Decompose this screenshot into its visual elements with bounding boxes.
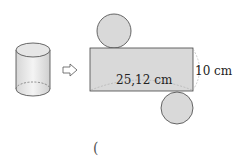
bottom-base-circle (161, 92, 193, 124)
height-label: 10 cm (195, 64, 232, 78)
length-label: 25,12 cm (116, 73, 172, 87)
top-base-circle (97, 14, 131, 48)
cylinder-solid (16, 43, 50, 96)
arrow-icon (63, 64, 77, 76)
answer-bracket: ( (93, 140, 98, 156)
